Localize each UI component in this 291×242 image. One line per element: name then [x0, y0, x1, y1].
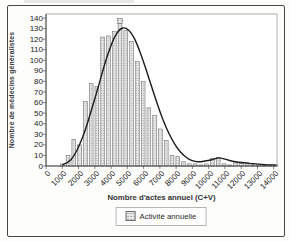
- bar: [101, 37, 105, 166]
- bar: [89, 84, 93, 166]
- bar: [135, 61, 139, 166]
- x-axis-title: Nombre d'actes annuel (C+V): [46, 193, 277, 202]
- bar: [170, 155, 174, 166]
- bar: [118, 23, 122, 166]
- bar: [112, 32, 116, 166]
- legend-swatch-hatched-square: [126, 211, 136, 221]
- bar: [130, 41, 134, 166]
- legend: Activité annuelle: [116, 207, 207, 226]
- figure: Nombre de médecins généralistes 01020304…: [0, 0, 291, 242]
- legend-label: Activité annuelle: [140, 212, 197, 221]
- plot-area: [40, 12, 280, 172]
- bar: [164, 141, 168, 166]
- bar: [153, 115, 157, 166]
- bar: [141, 81, 145, 166]
- bar: [147, 108, 151, 166]
- scan-artifact: [24, 0, 134, 3]
- bar: [182, 162, 186, 166]
- peak-marker: [118, 18, 123, 23]
- bar: [124, 31, 128, 166]
- bar: [176, 156, 180, 166]
- bar: [159, 129, 163, 166]
- bar: [234, 163, 238, 166]
